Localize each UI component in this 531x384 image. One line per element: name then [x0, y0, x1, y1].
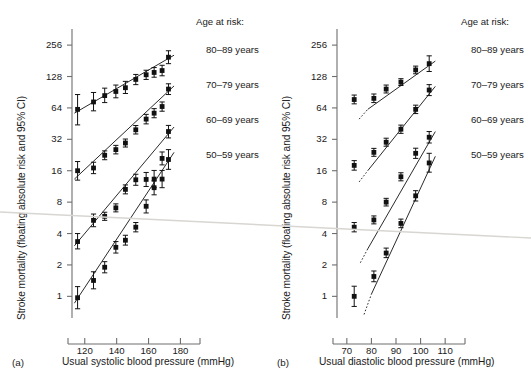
y-axis-tick-label: 1	[301, 290, 327, 301]
stroke-mortality-figure: Stroke mortality (floating absolute risk…	[0, 0, 531, 384]
y-axis-tick-label: 128	[301, 71, 327, 82]
y-axis-tick-label: 64	[36, 102, 62, 113]
series-8089	[74, 51, 174, 125]
y-axis-tick-label: 32	[301, 133, 327, 144]
y-axis-tick-label: 1	[36, 290, 62, 301]
y-axis-tick-label: 2	[36, 259, 62, 270]
y-axis-tick-label: 128	[36, 71, 62, 82]
series-5059	[352, 153, 436, 314]
x-axis-tick-label: 110	[430, 345, 460, 356]
y-axis-tick-label: 256	[36, 39, 62, 50]
y-axis-tick-label: 8	[36, 196, 62, 207]
y-axis-tick-label: 2	[301, 259, 327, 270]
y-axis-tick-label: 8	[301, 196, 327, 207]
panel-b-plot	[265, 0, 531, 384]
y-axis-tick-label: 4	[36, 228, 62, 239]
y-axis-tick-label: 16	[301, 165, 327, 176]
y-axis-tick-label: 4	[301, 228, 327, 239]
series-6069	[352, 132, 436, 263]
y-axis-tick-label: 32	[36, 133, 62, 144]
x-axis-tick-label: 140	[102, 345, 132, 356]
panel-a-systolic: Stroke mortality (floating absolute risk…	[0, 0, 266, 384]
y-axis-tick-label: 16	[36, 165, 62, 176]
y-axis-tick-label: 64	[301, 102, 327, 113]
panel-b-diastolic: Stroke mortality (floating absolute risk…	[265, 0, 531, 384]
series-8089	[352, 56, 436, 119]
x-axis-tick-label: 120	[70, 345, 100, 356]
x-axis-tick-label: 180	[165, 345, 195, 356]
panel-a-plot	[0, 0, 266, 384]
series-5059	[74, 150, 174, 309]
y-axis-tick-label: 256	[301, 39, 327, 50]
x-axis-tick-label: 160	[134, 345, 164, 356]
series-7079	[352, 85, 436, 182]
series-7079	[74, 84, 174, 180]
